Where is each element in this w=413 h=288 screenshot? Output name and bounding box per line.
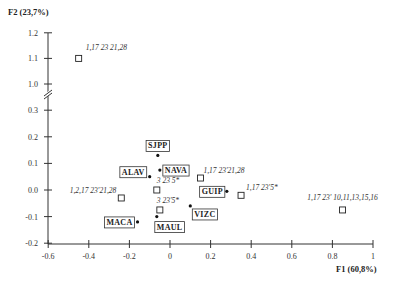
y-axis-title: F2 (23,7%) bbox=[8, 7, 49, 17]
y-tick-label: 1.2 bbox=[28, 29, 38, 38]
region-label: VIZC bbox=[194, 210, 215, 219]
x-ticks: -0.6-0.4-0.200.20.40.60.81 bbox=[42, 240, 375, 261]
y-tick-label: 1.1 bbox=[28, 54, 38, 63]
genotype-square bbox=[238, 192, 244, 198]
y-tick-label: 1.0 bbox=[28, 80, 38, 89]
data-points: SJPPNAVAALAVGUIPVIZCMAULMACA1,17 23 21,2… bbox=[70, 43, 378, 232]
genotype-label: 1,17 23'5* bbox=[246, 183, 278, 192]
x-tick-label: 0 bbox=[168, 252, 172, 261]
y-tick-label: 0.2 bbox=[28, 133, 38, 142]
region-dot bbox=[158, 168, 161, 171]
x-tick-label: 1 bbox=[371, 252, 375, 261]
genotype-label: 1,2,17 23'21,28 bbox=[70, 186, 117, 195]
region-dot bbox=[156, 154, 159, 157]
y-tick-label: -0.2 bbox=[25, 239, 38, 248]
x-tick-label: -0.6 bbox=[42, 252, 55, 261]
x-tick-label: 0.2 bbox=[206, 252, 216, 261]
x-tick-label: 0.8 bbox=[327, 252, 337, 261]
y-tick-label: 0.1 bbox=[28, 159, 38, 168]
region-dot bbox=[136, 220, 139, 223]
genotype-square bbox=[76, 55, 82, 61]
scatter-chart: 1.21.11.00.30.20.10.0-0.1-0.2 -0.6-0.4-0… bbox=[0, 0, 413, 288]
x-tick-label: -0.2 bbox=[123, 252, 136, 261]
genotype-square bbox=[197, 175, 203, 181]
y-tick-label: 0.0 bbox=[28, 186, 38, 195]
region-dot bbox=[148, 175, 151, 178]
y-axis bbox=[44, 33, 52, 244]
y-tick-label: 0.3 bbox=[28, 106, 38, 115]
x-tick-label: 0.6 bbox=[287, 252, 297, 261]
genotype-label: 1,17 23'21,28 bbox=[203, 166, 244, 175]
genotype-square bbox=[157, 207, 163, 213]
genotype-square bbox=[118, 195, 124, 201]
region-label: NAVA bbox=[165, 166, 187, 175]
x-tick-label: -0.4 bbox=[82, 252, 95, 261]
region-dot bbox=[189, 204, 192, 207]
region-label: MAUL bbox=[157, 223, 183, 232]
region-dot bbox=[155, 215, 158, 218]
genotype-label: 1,17 23 21,28 bbox=[86, 43, 128, 52]
genotype-label: 3 23 5* bbox=[156, 176, 180, 185]
genotype-square bbox=[154, 187, 160, 193]
y-tick-label: -0.1 bbox=[25, 213, 38, 222]
region-label: MACA bbox=[106, 218, 132, 227]
x-tick-label: 0.4 bbox=[246, 252, 256, 261]
x-axis-title: F1 (60,8%) bbox=[336, 264, 377, 274]
region-dot bbox=[225, 190, 228, 193]
genotype-label: 3 23'5* bbox=[156, 196, 179, 205]
genotype-label: 1,17 23' 10,11,13,15,16 bbox=[307, 193, 378, 202]
region-label: GUIP bbox=[202, 187, 223, 196]
region-label: ALAV bbox=[122, 168, 145, 177]
genotype-square bbox=[340, 207, 346, 213]
region-label: SJPP bbox=[148, 141, 167, 150]
